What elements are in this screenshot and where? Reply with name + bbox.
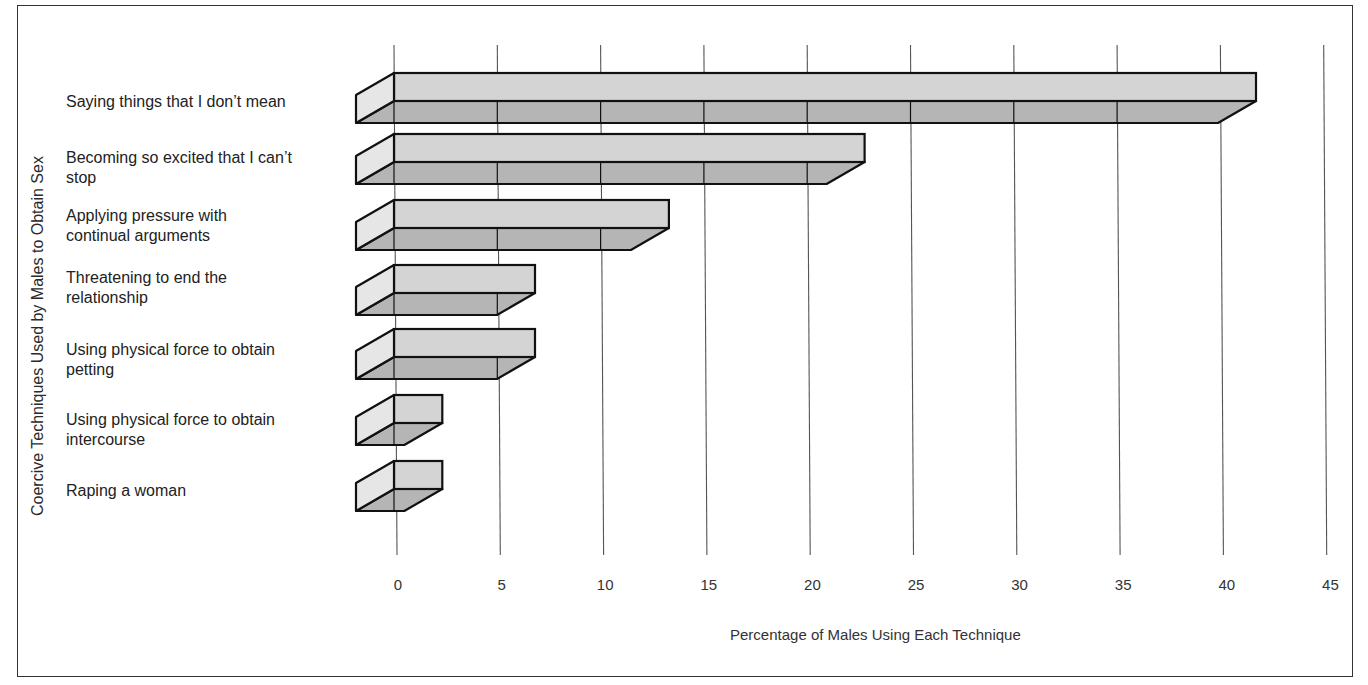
- x-tick-label: 5: [497, 576, 505, 593]
- bar-top-face: [394, 329, 535, 357]
- bar: [356, 461, 442, 511]
- x-axis-label: Percentage of Males Using Each Technique: [730, 626, 1021, 643]
- x-tick-label: 30: [1011, 576, 1028, 593]
- bar-top-face: [394, 265, 535, 293]
- bar-bottom-face: [356, 228, 669, 250]
- bar: [356, 395, 442, 445]
- bar-top-face: [394, 73, 1256, 101]
- x-tick-label: 25: [908, 576, 925, 593]
- bar-bottom-face: [356, 162, 865, 184]
- gridline: [1324, 45, 1327, 555]
- bar: [356, 134, 865, 184]
- bar: [356, 200, 669, 250]
- bar-top-face: [394, 395, 442, 423]
- x-tick-label: 45: [1322, 576, 1339, 593]
- plot-area: [0, 0, 1368, 685]
- x-tick-label: 20: [804, 576, 821, 593]
- x-tick-label: 10: [597, 576, 614, 593]
- bar: [356, 329, 535, 379]
- x-tick-label: 40: [1218, 576, 1235, 593]
- x-tick-label: 15: [700, 576, 717, 593]
- bar: [356, 265, 535, 315]
- x-tick-label: 0: [394, 576, 402, 593]
- bar-bottom-face: [356, 101, 1256, 123]
- x-tick-label: 35: [1115, 576, 1132, 593]
- bar-top-face: [394, 134, 865, 162]
- bar: [356, 73, 1256, 123]
- bar-top-face: [394, 200, 669, 228]
- bar-top-face: [394, 461, 442, 489]
